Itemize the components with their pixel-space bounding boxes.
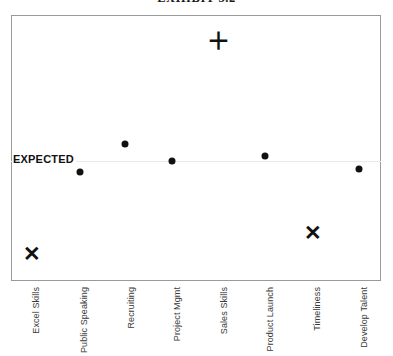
category-label: Sales Skills — [219, 287, 229, 334]
expected-label: EXPECTED — [13, 153, 76, 165]
chart-title: EXHIBIT 5.2 — [0, 0, 393, 6]
data-point-cross-marker: ✕ — [304, 222, 322, 243]
category-label: Product Launch — [265, 287, 275, 351]
category-label: Excel Skills — [31, 287, 41, 334]
data-point-dot-marker — [169, 158, 176, 165]
data-point-plus-marker: ＋ — [207, 30, 230, 53]
category-label: Project Mgmt — [172, 287, 182, 341]
data-point-dot-marker — [122, 141, 129, 148]
plot-area — [11, 15, 381, 281]
category-label: Public Speaking — [79, 287, 89, 353]
scatter-chart-figure: EXHIBIT 5.2 EXPECTED ✕＋✕ Excel SkillsPub… — [0, 0, 393, 356]
category-label: Recruiting — [126, 287, 136, 329]
category-label: Develop Talent — [359, 287, 369, 348]
data-point-dot-marker — [77, 169, 84, 176]
data-point-dot-marker — [356, 166, 363, 173]
data-point-cross-marker: ✕ — [23, 243, 41, 264]
data-point-dot-marker — [262, 153, 269, 160]
category-label: Timeliness — [312, 287, 322, 331]
